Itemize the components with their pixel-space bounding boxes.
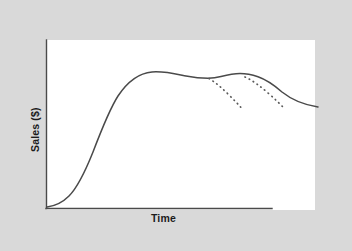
axes-group	[46, 40, 272, 209]
sales-curve-line	[47, 72, 318, 207]
y-axis-label: Sales ($)	[29, 107, 41, 152]
chart-canvas	[0, 0, 352, 251]
chart-figure: Sales ($) Time	[0, 0, 352, 251]
x-axis-label: Time	[151, 212, 176, 224]
decline-alternative-2	[245, 77, 284, 108]
series-group	[47, 72, 318, 207]
decline-alternative-1	[209, 79, 241, 108]
